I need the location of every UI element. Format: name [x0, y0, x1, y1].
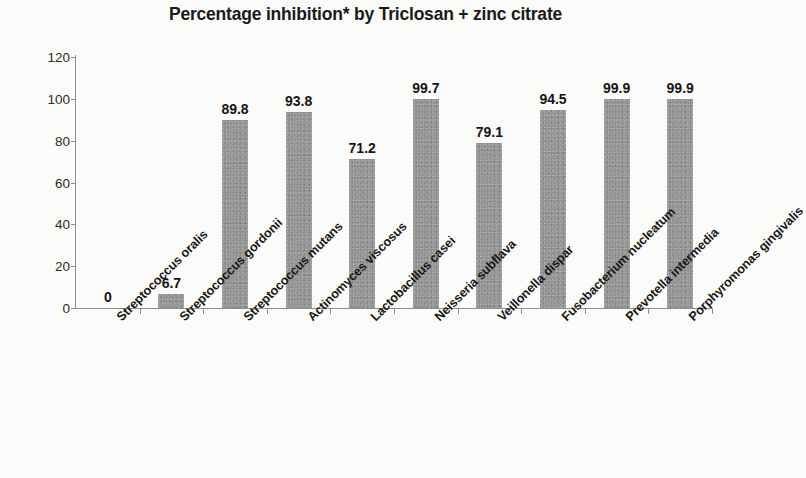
x-axis-category-label: Streptococcus gordonii: [177, 216, 285, 324]
x-axis-category-label: Fusobacterium nucleatum: [559, 205, 678, 324]
x-axis-category-label: Porphyromonas gingivalis: [686, 204, 806, 324]
